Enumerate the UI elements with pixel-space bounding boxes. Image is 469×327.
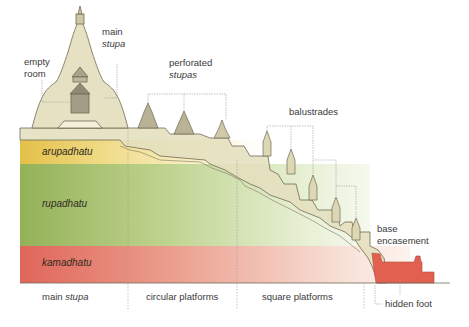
- stupa-cross-section-diagram: [0, 0, 469, 327]
- section-label-main-stupa-italic: stupa: [65, 291, 88, 302]
- section-label-square-platforms: square platforms: [262, 291, 333, 302]
- callout-main-stupa-line2: stupa: [102, 38, 125, 50]
- section-label-main-stupa-prefix: main: [42, 291, 65, 302]
- callout-hidden-foot: hidden foot: [385, 298, 432, 310]
- callout-base-encasement: base encasement: [377, 223, 429, 247]
- callout-empty-room-line1: empty: [24, 56, 50, 68]
- callout-balustrades-label: balustrades: [289, 106, 338, 118]
- zone-label-kamadhatu: kamadhatu: [42, 257, 91, 268]
- callout-main-stupa-line1: main: [102, 26, 125, 38]
- callout-perforated-stupas: perforated stupas: [169, 57, 212, 81]
- callout-base-encasement-line1: base: [377, 223, 429, 235]
- section-label-circular-platforms: circular platforms: [146, 291, 218, 302]
- callout-empty-room-line2: room: [24, 68, 50, 80]
- zone-label-arupadhatu: arupadhatu: [42, 146, 93, 157]
- section-label-main-stupa: main stupa: [42, 291, 88, 302]
- callout-main-stupa: main stupa: [102, 26, 125, 50]
- callout-perforated-stupas-line2: stupas: [169, 69, 212, 81]
- callout-perforated-stupas-line1: perforated: [169, 57, 212, 69]
- callout-base-encasement-line2: encasement: [377, 235, 429, 247]
- callout-empty-room: empty room: [24, 56, 50, 80]
- zone-label-rupadhatu: rupadhatu: [42, 198, 87, 209]
- callout-balustrades: balustrades: [289, 106, 338, 118]
- callout-hidden-foot-label: hidden foot: [385, 298, 432, 310]
